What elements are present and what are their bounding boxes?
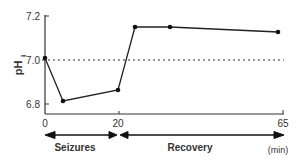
phase-label-seizures: Seizures bbox=[54, 142, 96, 153]
x-axis-unit-label: (min) bbox=[268, 145, 289, 155]
x-tick-label: 20 bbox=[112, 118, 124, 129]
y-tick-label: 7.0 bbox=[26, 55, 40, 66]
svg-text:i: i bbox=[19, 55, 28, 57]
svg-text:pH: pH bbox=[12, 61, 24, 76]
ph-chart: 7.2 7.0 6.8 pH i 0 20 65 bbox=[0, 0, 296, 162]
data-points bbox=[43, 25, 281, 104]
x-tick-label: 0 bbox=[42, 118, 48, 129]
y-tick-label: 6.8 bbox=[26, 99, 40, 110]
x-ticks: 0 20 65 bbox=[42, 110, 289, 129]
y-tick-label: 7.2 bbox=[26, 11, 40, 22]
phase-arrows bbox=[45, 132, 284, 139]
x-tick-label: 65 bbox=[277, 118, 289, 129]
data-series-line bbox=[45, 27, 278, 101]
phase-label-recovery: Recovery bbox=[167, 142, 212, 153]
